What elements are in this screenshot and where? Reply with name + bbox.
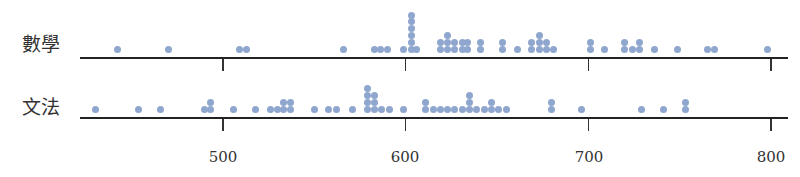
- axis-line-grammar: [80, 117, 788, 119]
- data-dot: [378, 106, 385, 113]
- dot-plot-chart: 數學 文法 500 600 700 800: [0, 0, 800, 177]
- data-dot: [543, 39, 550, 46]
- data-dot: [550, 46, 557, 53]
- data-dot: [536, 39, 543, 46]
- data-dot: [466, 99, 473, 106]
- data-dot: [459, 106, 466, 113]
- data-dot: [444, 46, 451, 53]
- data-dot: [528, 46, 535, 53]
- data-dot: [207, 99, 214, 106]
- tick-mark-700: [588, 59, 590, 71]
- data-dot: [548, 106, 555, 113]
- data-dot: [364, 85, 371, 92]
- data-dot: [682, 106, 689, 113]
- data-dot: [364, 106, 371, 113]
- data-dot: [528, 39, 535, 46]
- data-dot: [325, 106, 332, 113]
- data-dot: [236, 46, 243, 53]
- data-dot: [311, 106, 318, 113]
- tick-mark-700: [588, 119, 590, 131]
- data-dot: [601, 46, 608, 53]
- data-dot: [621, 39, 628, 46]
- data-dot: [578, 106, 585, 113]
- data-dot: [243, 46, 250, 53]
- data-dot: [114, 46, 121, 53]
- data-dot: [280, 106, 287, 113]
- data-dot: [371, 92, 378, 99]
- data-dot: [629, 46, 636, 53]
- data-dot: [451, 39, 458, 46]
- data-dot: [371, 99, 378, 106]
- data-dot: [437, 106, 444, 113]
- data-dot: [587, 39, 594, 46]
- data-dot: [466, 92, 473, 99]
- data-dot: [207, 106, 214, 113]
- data-dot: [674, 46, 681, 53]
- tick-label-700: 700: [575, 148, 604, 166]
- data-dot: [477, 39, 484, 46]
- data-dot: [364, 92, 371, 99]
- data-dot: [408, 39, 415, 46]
- data-dot: [422, 99, 429, 106]
- data-dot: [638, 106, 645, 113]
- data-dot: [157, 106, 164, 113]
- data-dot: [430, 106, 437, 113]
- tick-mark-800: [770, 59, 772, 71]
- data-dot: [495, 106, 502, 113]
- data-dot: [477, 46, 484, 53]
- data-dot: [473, 106, 480, 113]
- tick-mark-600: [405, 59, 407, 71]
- data-dot: [422, 106, 429, 113]
- data-dot: [444, 32, 451, 39]
- data-dot: [444, 39, 451, 46]
- tick-label-800: 800: [757, 148, 786, 166]
- data-dot: [466, 106, 473, 113]
- tick-label-600: 600: [391, 148, 420, 166]
- tick-label-500: 500: [209, 148, 238, 166]
- data-dot: [408, 32, 415, 39]
- data-dot: [349, 106, 356, 113]
- data-dot: [364, 99, 371, 106]
- data-dot: [92, 106, 99, 113]
- data-dot: [400, 46, 407, 53]
- axis-line-math: [80, 57, 788, 59]
- data-dot: [230, 106, 237, 113]
- data-dot: [651, 46, 658, 53]
- data-dot: [287, 106, 294, 113]
- data-dot: [408, 25, 415, 32]
- data-dot: [548, 99, 555, 106]
- data-dot: [371, 106, 378, 113]
- data-dot: [704, 46, 711, 53]
- tick-mark-500: [222, 119, 224, 131]
- data-dot: [280, 99, 287, 106]
- data-dot: [165, 46, 172, 53]
- data-dot: [386, 106, 393, 113]
- data-dot: [536, 46, 543, 53]
- data-dot: [135, 106, 142, 113]
- tick-mark-600: [405, 119, 407, 131]
- data-dot: [499, 39, 506, 46]
- data-dot: [451, 46, 458, 53]
- data-dot: [488, 99, 495, 106]
- data-dot: [340, 46, 347, 53]
- data-dot: [408, 12, 415, 19]
- data-dot: [384, 46, 391, 53]
- data-dot: [333, 106, 340, 113]
- data-dot: [481, 106, 488, 113]
- data-dot: [377, 46, 384, 53]
- data-dot: [764, 46, 771, 53]
- data-dot: [464, 46, 471, 53]
- data-dot: [514, 46, 521, 53]
- data-dot: [488, 106, 495, 113]
- data-dot: [267, 106, 274, 113]
- data-dot: [660, 106, 667, 113]
- data-dot: [543, 46, 550, 53]
- data-dot: [400, 106, 407, 113]
- data-dot: [408, 18, 415, 25]
- data-dot: [464, 39, 471, 46]
- data-dot: [437, 39, 444, 46]
- tick-mark-800: [770, 119, 772, 131]
- data-dot: [536, 32, 543, 39]
- tick-mark-500: [222, 59, 224, 71]
- data-dot: [287, 99, 294, 106]
